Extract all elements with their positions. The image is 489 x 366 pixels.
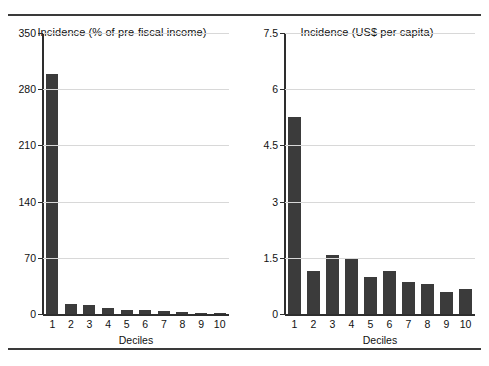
figure-top-rule [8,14,481,16]
y-tick-label-left-140: 140 [18,196,36,208]
y-tick-right-7.5 [280,33,285,34]
gridline-left-210 [43,145,229,146]
bar-cell-left-decile-8 [173,33,192,314]
y-tick-label-left-280: 280 [18,83,36,95]
y-tick-label-right-1.5: 1.5 [263,252,278,264]
x-tick-label-left-6: 6 [136,318,155,330]
bar-series-left [43,33,229,314]
chart-panel-percent-of-prefiscal-income: Incidence (% of pre-fiscal income) 12345… [0,18,244,344]
x-tick-label-right-1: 1 [285,318,304,330]
bar-left-decile-1[interactable] [46,74,58,314]
bar-right-decile-9[interactable] [440,292,453,314]
x-tick-label-left-4: 4 [99,318,118,330]
x-tick-label-left-10: 10 [210,318,229,330]
y-tick-left-210 [38,145,43,146]
x-tick-labels-left: 12345678910 [43,318,229,330]
bar-cell-left-decile-1 [43,33,62,314]
y-tick-right-0 [280,314,285,315]
bar-right-decile-3[interactable] [326,255,339,314]
y-tick-right-6 [280,89,285,90]
bar-cell-left-decile-3 [80,33,99,314]
bar-cell-right-decile-8 [418,33,437,314]
x-tick-label-left-7: 7 [155,318,174,330]
gridline-right-0 [285,314,475,316]
bar-right-decile-2[interactable] [307,271,320,314]
gridline-left-140 [43,202,229,203]
bar-right-decile-8[interactable] [421,284,434,314]
y-tick-label-left-210: 210 [18,139,36,151]
bar-cell-right-decile-3 [323,33,342,314]
bar-right-decile-10[interactable] [459,289,472,314]
bar-cell-right-decile-6 [380,33,399,314]
bar-cell-right-decile-2 [304,33,323,314]
y-tick-left-140 [38,202,43,203]
bar-right-decile-5[interactable] [364,277,377,314]
bar-cell-left-decile-6 [136,33,155,314]
gridline-right-4.5 [285,145,475,146]
bar-cell-right-decile-7 [399,33,418,314]
x-tick-labels-right: 12345678910 [285,318,475,330]
bar-cell-left-decile-4 [99,33,118,314]
plot-area-left: 12345678910 Deciles 070140210280350 [43,33,229,314]
bar-right-decile-6[interactable] [383,271,396,314]
x-axis-title-left: Deciles [43,334,229,346]
x-axis-title-right: Deciles [285,334,475,346]
x-tick-label-right-3: 3 [323,318,342,330]
bar-right-decile-7[interactable] [402,282,415,314]
bar-right-decile-4[interactable] [345,259,358,314]
x-tick-label-left-1: 1 [43,318,62,330]
x-tick-label-right-5: 5 [361,318,380,330]
bar-cell-left-decile-5 [117,33,136,314]
y-tick-label-left-70: 70 [24,252,36,264]
y-tick-label-right-6: 6 [272,83,278,95]
y-tick-right-1.5 [280,258,285,259]
x-tick-label-right-2: 2 [304,318,323,330]
gridline-right-7.5 [285,33,475,34]
y-tick-left-0 [38,314,43,315]
x-tick-label-left-5: 5 [117,318,136,330]
bar-cell-right-decile-5 [361,33,380,314]
y-tick-label-right-0: 0 [272,308,278,320]
bar-cell-left-decile-7 [155,33,174,314]
x-tick-label-right-10: 10 [456,318,475,330]
x-tick-label-right-7: 7 [399,318,418,330]
x-tick-label-left-9: 9 [192,318,211,330]
y-tick-left-280 [38,89,43,90]
gridline-right-6 [285,89,475,90]
y-tick-right-3 [280,202,285,203]
gridline-left-0 [43,314,229,316]
gridline-left-350 [43,33,229,34]
x-tick-label-right-8: 8 [418,318,437,330]
y-tick-left-350 [38,33,43,34]
bar-cell-right-decile-10 [456,33,475,314]
x-tick-label-left-2: 2 [62,318,81,330]
gridline-left-280 [43,89,229,90]
y-tick-label-left-350: 350 [18,27,36,39]
y-tick-right-4.5 [280,145,285,146]
bar-series-right [285,33,475,314]
figure-bottom-rule [8,348,481,350]
bar-left-decile-2[interactable] [65,304,77,314]
x-tick-label-right-4: 4 [342,318,361,330]
gridline-right-3 [285,202,475,203]
bar-right-decile-1[interactable] [288,117,301,314]
y-tick-label-left-0: 0 [30,308,36,320]
x-tick-label-left-3: 3 [80,318,99,330]
chart-panel-usd-per-capita: Incidence (US$ per capita) 12345678910 D… [245,18,489,344]
x-tick-label-right-9: 9 [437,318,456,330]
y-tick-label-right-4.5: 4.5 [263,139,278,151]
gridline-left-70 [43,258,229,259]
bar-cell-right-decile-9 [437,33,456,314]
bar-cell-left-decile-9 [192,33,211,314]
plot-area-right: 12345678910 Deciles 01.534.567.5 [285,33,475,314]
y-tick-label-right-7.5: 7.5 [263,27,278,39]
x-tick-label-right-6: 6 [380,318,399,330]
y-tick-label-right-3: 3 [272,196,278,208]
x-tick-label-left-8: 8 [173,318,192,330]
bar-cell-right-decile-1 [285,33,304,314]
bar-cell-left-decile-10 [210,33,229,314]
bar-left-decile-3[interactable] [83,305,95,314]
gridline-right-1.5 [285,258,475,259]
figure-container: Incidence (% of pre-fiscal income) 12345… [0,0,489,366]
bar-cell-left-decile-2 [62,33,81,314]
